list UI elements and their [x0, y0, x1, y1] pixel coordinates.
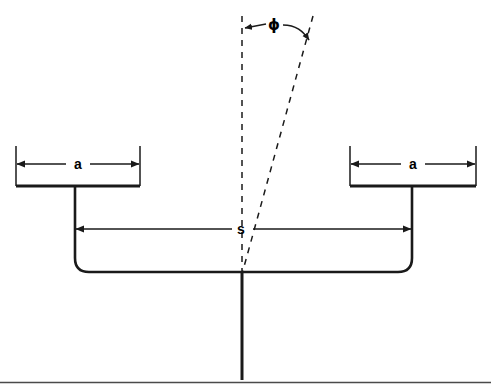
- left-dimension-a-group: a: [16, 146, 140, 186]
- right-dimension-a-group: a: [350, 146, 476, 186]
- angle-annotation-group: ɸ: [245, 16, 309, 40]
- diagram-canvas: ɸ a a s: [0, 0, 491, 392]
- angle-left-arrow: [245, 24, 266, 28]
- right-gap-label: a: [409, 156, 417, 172]
- tilted-ray-dashed-line: [242, 16, 313, 274]
- schematic-diagram: ɸ a a s: [0, 0, 491, 392]
- angle-right-arrow: [283, 25, 309, 40]
- angle-label: ɸ: [268, 16, 280, 34]
- separation-label: s: [237, 221, 245, 237]
- left-gap-label: a: [74, 156, 82, 172]
- separation-dimension-s-group: s: [76, 221, 411, 237]
